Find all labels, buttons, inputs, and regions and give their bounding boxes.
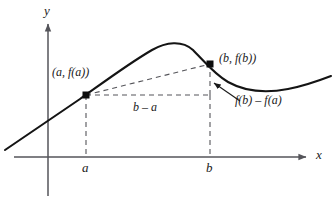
point-a-marker xyxy=(83,92,90,99)
secant-line xyxy=(86,64,210,95)
point-a-label: (a, f(a)) xyxy=(52,66,89,78)
figure-graphics xyxy=(0,0,334,207)
y-axis-label: y xyxy=(44,4,50,17)
run-annotation-label: b – a xyxy=(133,101,157,113)
point-b-marker xyxy=(207,61,214,68)
x-axis-label: x xyxy=(316,148,322,161)
rise-annotation-label: f(b) – f(a) xyxy=(235,94,282,106)
figure-canvas: y x a b (a, f(a)) (b, f(b)) b – a f(b) –… xyxy=(0,0,334,207)
axis-group xyxy=(14,24,306,196)
point-b-label: (b, f(b)) xyxy=(219,52,256,64)
x-tick-label-b: b xyxy=(206,161,213,174)
x-tick-label-a: a xyxy=(82,161,89,174)
function-curve xyxy=(5,43,331,150)
